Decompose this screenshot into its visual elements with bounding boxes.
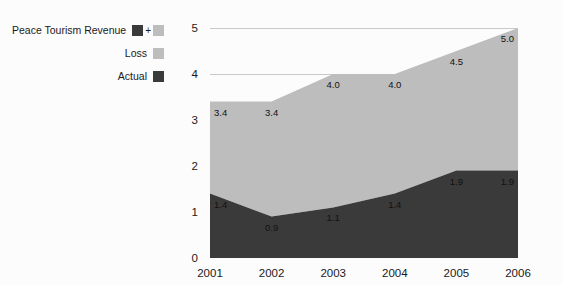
area-series-group: [210, 28, 518, 258]
data-label-loss: 3.4: [265, 107, 278, 118]
y-axis-ticks: 012345: [192, 22, 199, 264]
data-label-loss: 4.0: [327, 79, 340, 90]
data-label-loss: 3.4: [214, 107, 227, 118]
x-axis-tick-label: 2006: [505, 267, 531, 279]
stacked-area-chart: Peace Tourism Revenue + Loss Actual 0123…: [0, 0, 562, 285]
y-axis-tick-label: 3: [192, 114, 198, 126]
x-axis-tick-label: 2002: [259, 267, 285, 279]
x-axis-tick-label: 2001: [197, 267, 223, 279]
x-axis-ticks: 200120022003200420052006: [197, 267, 531, 279]
data-label-actual: 1.4: [388, 199, 401, 210]
data-label-actual: 1.9: [501, 176, 514, 187]
data-label-loss: 4.5: [450, 56, 463, 67]
plot-svg: 012345 200120022003200420052006 3.43.44.…: [0, 0, 562, 285]
y-axis-tick-label: 1: [192, 206, 198, 218]
plot-area: 012345 200120022003200420052006 3.43.44.…: [0, 0, 562, 285]
x-axis-tick-label: 2004: [382, 267, 408, 279]
y-axis-tick-label: 0: [192, 252, 198, 264]
data-label-loss: 5.0: [501, 33, 514, 44]
y-axis-tick-label: 5: [192, 22, 198, 34]
data-label-actual: 1.4: [214, 199, 227, 210]
data-label-actual: 1.9: [450, 176, 463, 187]
y-axis-tick-label: 4: [192, 68, 199, 80]
data-label-loss: 4.0: [388, 79, 401, 90]
x-axis-tick-label: 2003: [320, 267, 346, 279]
data-label-actual: 1.1: [327, 212, 340, 223]
y-axis-tick-label: 2: [192, 160, 198, 172]
x-axis-tick-label: 2005: [444, 267, 470, 279]
data-label-actual: 0.9: [265, 222, 278, 233]
